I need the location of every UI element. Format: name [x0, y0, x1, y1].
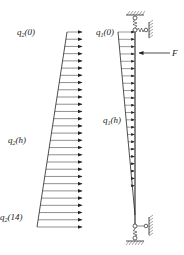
q2-distributed-load: [37, 32, 82, 227]
bottom-support: [126, 215, 153, 245]
top-vertical-spring-icon: [133, 20, 137, 28]
q2-14-label: q2(14): [0, 212, 23, 223]
bottom-vertical-spring-icon: [133, 228, 137, 236]
structural-diagram: q2(0) q2(h) q2(14) q1(0) q1(h) F: [0, 0, 184, 255]
top-support: [126, 11, 153, 38]
column-bottom-joint-icon: [133, 224, 137, 228]
q2-h-label: q2(h): [8, 135, 26, 146]
q2-0-label: q2(0): [17, 27, 35, 38]
bottom-hinge-icon: [133, 236, 137, 240]
top-horizontal-spring-icon: [137, 28, 144, 32]
top-hinge-icon: [133, 16, 137, 20]
q1-0-label: q1(0): [96, 27, 114, 38]
q1-h-label: q1(h): [103, 115, 121, 126]
column-top-joint-icon: [133, 28, 137, 32]
force-f-label: F: [171, 48, 178, 58]
q2-load-envelope: [37, 32, 67, 227]
